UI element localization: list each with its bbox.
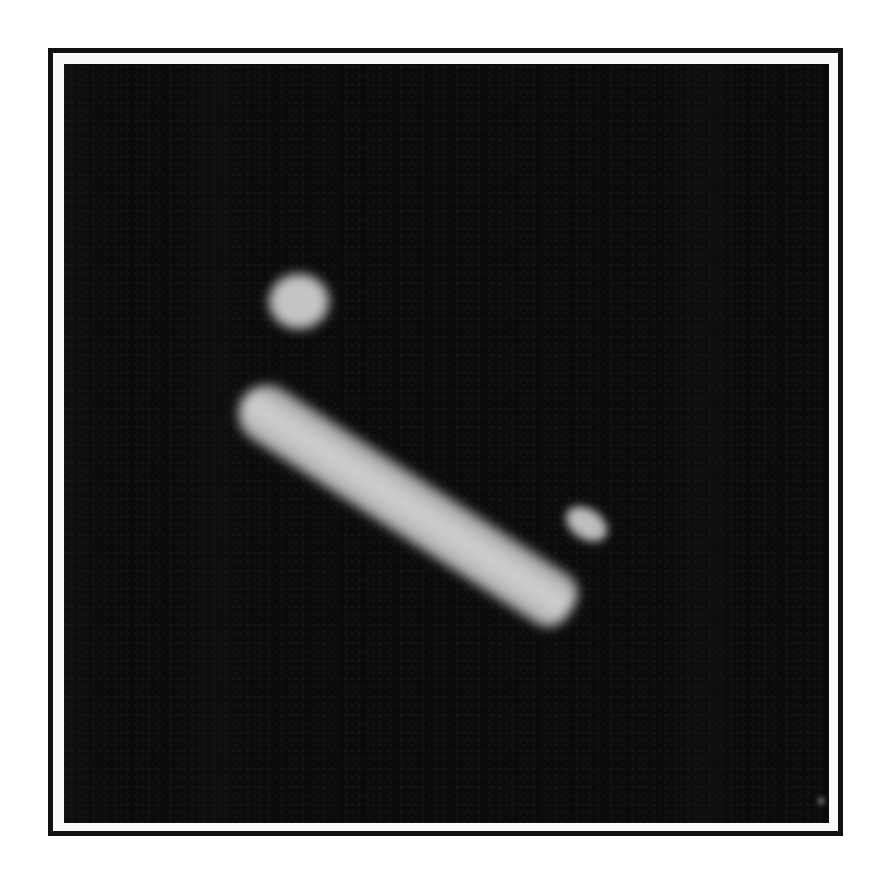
- cell-end-upper-left: [269, 274, 329, 329]
- image-frame-outer: Microscopy image of a single elongated, …: [48, 48, 843, 836]
- microscopy-image: Microscopy image of a single elongated, …: [64, 64, 829, 823]
- background-speck: [817, 797, 825, 805]
- background-noise: [64, 64, 829, 823]
